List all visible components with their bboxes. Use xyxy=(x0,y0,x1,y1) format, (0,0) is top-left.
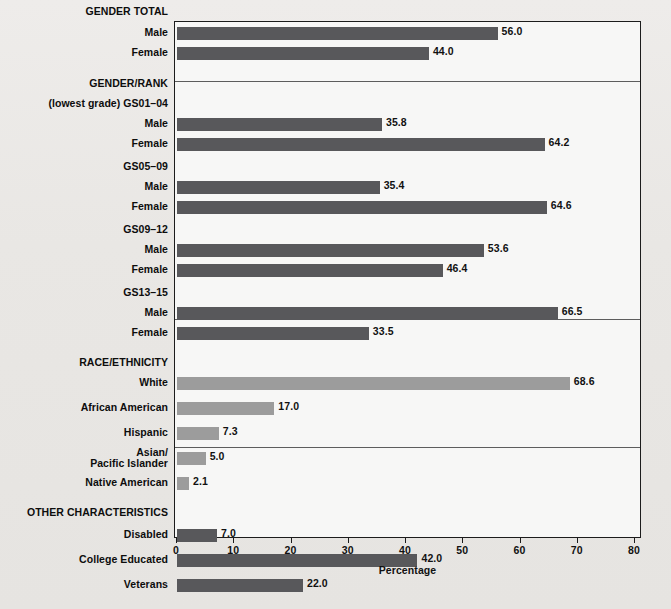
section-separator xyxy=(175,81,640,82)
category-label-female: Female xyxy=(0,260,174,280)
category-label-male: Male xyxy=(0,114,174,134)
label-text: African American xyxy=(81,402,174,414)
label-text: Hispanic xyxy=(124,427,174,439)
bar-value-label: 64.6 xyxy=(551,199,572,211)
x-tick xyxy=(233,538,234,543)
bar-female xyxy=(177,264,443,277)
category-label-native-american: Native American xyxy=(0,473,174,493)
x-tick xyxy=(405,538,406,543)
bar-female xyxy=(177,47,429,60)
section-heading-other-characteristics: OTHER CHARACTERISTICS xyxy=(0,503,174,523)
label-text: (lowest grade) GS01–04 xyxy=(48,98,174,110)
label-text: GS05–09 xyxy=(123,161,174,173)
bar-value-label: 64.2 xyxy=(549,136,570,148)
bar-asian-pacific-islander xyxy=(177,452,206,465)
label-text: Male xyxy=(144,118,174,130)
bar-row: 5.0 xyxy=(175,449,640,469)
bar-row: 2.1 xyxy=(175,474,640,494)
bar-male xyxy=(177,307,558,320)
bar-value-label: 56.0 xyxy=(502,25,523,37)
x-axis-title: Percentage xyxy=(174,564,641,576)
bar-value-label: 22.0 xyxy=(307,577,328,589)
label-text: Male xyxy=(144,27,174,39)
bar-row: 7.3 xyxy=(175,424,640,444)
chart-page: GENDER TOTALMaleFemaleGENDER/RANK(lowest… xyxy=(0,0,671,609)
bar-value-label: 2.1 xyxy=(193,475,208,487)
label-text: OTHER CHARACTERISTICS xyxy=(27,507,174,519)
bar-row: 35.8 xyxy=(175,115,640,135)
bar-veterans xyxy=(177,579,303,592)
label-text: Veterans xyxy=(124,579,174,591)
x-tick-label: 60 xyxy=(514,544,526,556)
bar-row: 35.4 xyxy=(175,178,640,198)
group-label-gs13-15: GS13–15 xyxy=(0,283,174,303)
label-text: White xyxy=(139,377,174,389)
x-tick xyxy=(577,538,578,543)
x-tick-label: 40 xyxy=(399,544,411,556)
category-label-asian-pacific-islander: Asian/Pacific Islander xyxy=(0,448,174,468)
label-text: Female xyxy=(132,138,175,150)
bar-male xyxy=(177,118,382,131)
bar-female xyxy=(177,138,545,151)
bar-male xyxy=(177,244,484,257)
bar-row: 64.2 xyxy=(175,135,640,155)
category-label-female: Female xyxy=(0,134,174,154)
label-text: RACE/ETHNICITY xyxy=(79,357,174,369)
category-label-male: Male xyxy=(0,303,174,323)
category-label-african-american: African American xyxy=(0,398,174,418)
bar-value-label: 5.0 xyxy=(210,450,225,462)
bar-value-label: 68.6 xyxy=(574,375,595,387)
bar-value-label: 33.5 xyxy=(373,325,394,337)
x-tick xyxy=(520,538,521,543)
category-label-male: Male xyxy=(0,240,174,260)
bar-row: 33.5 xyxy=(175,324,640,344)
category-label-white: White xyxy=(0,373,174,393)
x-tick xyxy=(176,538,177,543)
category-label-hispanic: Hispanic xyxy=(0,423,174,443)
label-text: Female xyxy=(132,327,175,339)
label-text: Disabled xyxy=(124,529,174,541)
bar-row: 68.6 xyxy=(175,374,640,394)
label-text: GENDER TOTAL xyxy=(86,6,174,18)
bar-male xyxy=(177,27,498,40)
x-tick xyxy=(348,538,349,543)
x-tick-label: 30 xyxy=(342,544,354,556)
bar-value-label: 7.3 xyxy=(223,425,238,437)
label-text: Male xyxy=(144,181,174,193)
x-tick-label: 0 xyxy=(173,544,179,556)
category-label-female: Female xyxy=(0,43,174,63)
bar-row: 64.6 xyxy=(175,198,640,218)
category-label-female: Female xyxy=(0,197,174,217)
bar-female xyxy=(177,201,547,214)
x-tick-label: 20 xyxy=(285,544,297,556)
bar-native-american xyxy=(177,477,189,490)
plot-area: 56.044.035.864.235.464.653.646.466.533.5… xyxy=(174,21,641,538)
bar-female xyxy=(177,327,369,340)
bar-african-american xyxy=(177,402,274,415)
category-label-male: Male xyxy=(0,23,174,43)
group-label-gs09-12: GS09–12 xyxy=(0,220,174,240)
label-text: Female xyxy=(132,201,175,213)
bar-value-label: 35.4 xyxy=(384,179,405,191)
category-label-veterans: Veterans xyxy=(0,575,174,595)
bar-value-label: 46.4 xyxy=(447,262,468,274)
bar-hispanic xyxy=(177,427,219,440)
section-heading-gender-rank: GENDER/RANK xyxy=(0,74,174,94)
group-label-gs05-09: GS05–09 xyxy=(0,157,174,177)
label-text: Asian/Pacific Islander xyxy=(90,447,174,470)
x-tick xyxy=(462,538,463,543)
bar-row: 22.0 xyxy=(175,576,640,596)
bar-row: 56.0 xyxy=(175,24,640,44)
x-tick xyxy=(291,538,292,543)
label-text: Female xyxy=(132,264,175,276)
x-tick-label: 80 xyxy=(628,544,640,556)
bar-row: 44.0 xyxy=(175,44,640,64)
bar-value-label: 66.5 xyxy=(562,305,583,317)
x-tick-label: 50 xyxy=(456,544,468,556)
bar-value-label: 53.6 xyxy=(488,242,509,254)
section-heading-gender-total: GENDER TOTAL xyxy=(0,2,174,22)
bar-value-label: 44.0 xyxy=(433,45,454,57)
label-text: College Educated xyxy=(79,554,174,566)
label-text: Native American xyxy=(85,477,174,489)
category-label-female: Female xyxy=(0,323,174,343)
